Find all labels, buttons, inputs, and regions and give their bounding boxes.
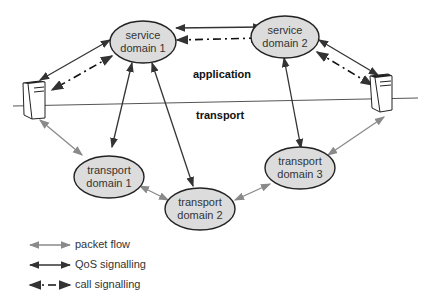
- label-td3: transportdomain 3: [265, 155, 335, 181]
- legend-qos-signalling: QoS signalling: [75, 258, 146, 270]
- call-sd1-server-left: [52, 56, 112, 90]
- label-sd2: servicedomain 2: [251, 24, 319, 50]
- server-right-icon: [370, 74, 392, 112]
- legend-call-signalling: call signalling: [75, 278, 140, 290]
- layer-application-label: application: [193, 68, 251, 80]
- packet-td1-td2: [140, 186, 168, 200]
- packet-td2-td3: [235, 184, 270, 200]
- label-sd1: servicedomain 1: [110, 29, 176, 55]
- call-sd2-server-right: [317, 52, 372, 85]
- label-td1: transportdomain 1: [74, 164, 144, 190]
- qos-sd1-td1: [112, 63, 132, 147]
- call-sd1-sd2: [177, 38, 262, 40]
- layer-divider: [13, 98, 418, 106]
- server-left-icon: [23, 81, 45, 119]
- diagram-canvas: [0, 0, 429, 308]
- qos-sd2-td3: [284, 58, 301, 148]
- legend-packet-flow: packet flow: [75, 238, 130, 250]
- label-td2: transportdomain 2: [165, 196, 235, 222]
- qos-sd1-td2: [152, 63, 193, 186]
- layer-transport-label: transport: [196, 109, 244, 121]
- qos-sd1-sd2: [176, 27, 262, 28]
- qos-sd2-server-right: [319, 40, 378, 75]
- packet-server-left-td1: [40, 120, 82, 155]
- qos-sd1-server-left: [40, 40, 110, 80]
- packet-td3-server-right: [328, 117, 384, 155]
